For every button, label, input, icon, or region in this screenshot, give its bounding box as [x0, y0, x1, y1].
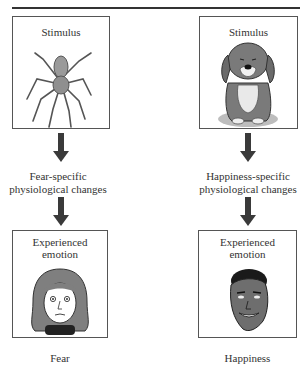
fear-arrow-1: [53, 133, 69, 163]
smiling-man-face-icon: [199, 263, 296, 337]
fear-physiology-label: Fear-specific physiological changes: [0, 170, 120, 196]
happiness-caption: Happiness: [198, 352, 297, 365]
happiness-arrow-2: [240, 197, 256, 227]
happiness-arrow-1: [240, 133, 256, 163]
experience-title: Experienced emotion: [13, 236, 107, 260]
spider-icon: [13, 39, 109, 129]
stimulus-title: Stimulus: [13, 26, 109, 38]
experience-title: Experienced emotion: [199, 236, 296, 260]
stimulus-title: Stimulus: [200, 26, 297, 38]
frightened-woman-face-icon: [13, 263, 107, 337]
dog-icon: [200, 39, 297, 129]
fear-stimulus-box: Stimulus: [12, 16, 110, 129]
happiness-stimulus-box: Stimulus: [199, 16, 298, 129]
fear-arrow-2: [53, 197, 69, 227]
fear-caption: Fear: [12, 352, 108, 365]
fear-experience-box: Experienced emotion: [12, 230, 108, 338]
happiness-experience-box: Experienced emotion: [198, 230, 297, 338]
happiness-physiology-label: Happiness-specific physiological changes: [185, 170, 300, 196]
top-rule: [12, 7, 300, 9]
